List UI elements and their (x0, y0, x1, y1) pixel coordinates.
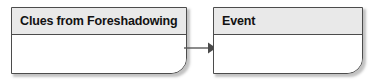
node-event-header: Event (214, 8, 362, 35)
node-clues-title: Clues from Foreshadowing (20, 15, 178, 28)
node-event-title: Event (222, 15, 255, 28)
node-clues-header: Clues from Foreshadowing (12, 8, 186, 35)
node-clues-from-foreshadowing[interactable]: Clues from Foreshadowing (11, 7, 187, 74)
node-event[interactable]: Event (213, 7, 363, 74)
diagram-canvas: Clues from Foreshadowing Event (0, 0, 375, 83)
node-clues-body[interactable] (12, 35, 186, 73)
connector-arrow-clues-to-event (184, 38, 216, 58)
node-event-body[interactable] (214, 35, 362, 73)
